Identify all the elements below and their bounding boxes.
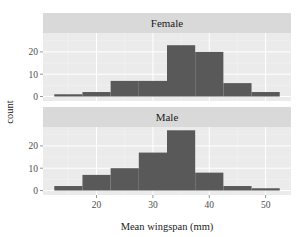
- histogram-bar: [167, 45, 195, 96]
- y-axis-title: count: [4, 100, 15, 123]
- histogram-bar: [195, 52, 223, 97]
- x-axis-title: Mean wingspan (mm): [121, 221, 214, 233]
- histogram-bar: [223, 186, 251, 190]
- y-tick-label: 0: [33, 92, 38, 102]
- x-tick-label: 30: [148, 200, 158, 210]
- faceted-histogram-chart: Female01020Male0102020304050 Mean wingsp…: [0, 0, 305, 237]
- facet-strip-label: Female: [151, 17, 183, 29]
- histogram-bar: [223, 83, 251, 96]
- facet-strip-label: Male: [156, 111, 179, 123]
- y-tick-label: 0: [33, 186, 38, 196]
- histogram-bar: [82, 92, 110, 96]
- histogram-bar: [111, 81, 139, 97]
- histogram-bar: [54, 186, 82, 190]
- histogram-bar: [252, 188, 280, 190]
- histogram-bar: [167, 130, 195, 190]
- y-tick-label: 10: [29, 70, 39, 80]
- histogram-bar: [195, 173, 223, 191]
- histogram-bar: [139, 81, 167, 97]
- histogram-bar: [54, 94, 82, 96]
- histogram-bar: [82, 175, 110, 191]
- histogram-bar: [139, 153, 167, 191]
- x-tick-label: 40: [205, 200, 215, 210]
- histogram-bar: [252, 92, 280, 96]
- histogram-bar: [111, 168, 139, 190]
- y-tick-label: 20: [29, 47, 39, 57]
- y-tick-label: 20: [29, 141, 39, 151]
- facet-panel-female: Female01020: [29, 13, 292, 102]
- facet-panel-male: Male0102020304050: [29, 107, 292, 210]
- x-tick-label: 20: [92, 200, 102, 210]
- x-tick-label: 50: [261, 200, 271, 210]
- y-tick-label: 10: [29, 164, 39, 174]
